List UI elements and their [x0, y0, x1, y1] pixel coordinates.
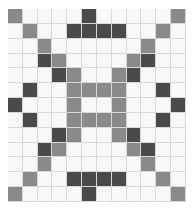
quilt-patch [97, 128, 112, 143]
quilt-patch [67, 143, 82, 158]
quilt-patch [97, 113, 112, 128]
quilt-patch [23, 128, 38, 143]
quilt-patch [23, 54, 38, 69]
quilt-patch [8, 157, 23, 172]
quilt-patch [127, 128, 142, 143]
quilt-patch [38, 39, 53, 54]
quilt-patch [171, 54, 186, 69]
quilt-patch [67, 128, 82, 143]
quilt-patch [52, 98, 67, 113]
quilt-patch [52, 9, 67, 24]
quilt-patch [171, 143, 186, 158]
quilt-patch [127, 24, 142, 39]
quilt-patch [38, 143, 53, 158]
quilt-patch [67, 157, 82, 172]
quilt-patch [97, 172, 112, 187]
quilt-patch [127, 83, 142, 98]
quilt-patch [141, 157, 156, 172]
quilt-patch [52, 128, 67, 143]
quilt-patch [171, 172, 186, 187]
quilt-patch [97, 83, 112, 98]
quilt-block-grid [8, 9, 186, 202]
quilt-patch [156, 172, 171, 187]
quilt-patch [67, 54, 82, 69]
quilt-patch [52, 143, 67, 158]
quilt-patch [23, 39, 38, 54]
quilt-patch [112, 54, 127, 69]
quilt-patch [8, 98, 23, 113]
quilt-patch [8, 113, 23, 128]
quilt-patch [23, 24, 38, 39]
quilt-patch [97, 39, 112, 54]
quilt-patch [8, 128, 23, 143]
quilt-patch [112, 98, 127, 113]
quilt-patch [112, 157, 127, 172]
quilt-patch [8, 172, 23, 187]
quilt-patch [8, 187, 23, 202]
quilt-patch [52, 157, 67, 172]
quilt-patch [23, 68, 38, 83]
quilt-patch [127, 187, 142, 202]
quilt-patch [8, 83, 23, 98]
quilt-patch [8, 68, 23, 83]
quilt-patch [8, 54, 23, 69]
quilt-figure [0, 0, 193, 211]
quilt-patch [97, 157, 112, 172]
quilt-patch [23, 83, 38, 98]
quilt-patch [82, 39, 97, 54]
quilt-patch [8, 9, 23, 24]
quilt-patch [171, 24, 186, 39]
quilt-patch [8, 39, 23, 54]
quilt-patch [112, 24, 127, 39]
quilt-patch [156, 24, 171, 39]
quilt-patch [112, 68, 127, 83]
quilt-patch [127, 54, 142, 69]
quilt-patch [38, 113, 53, 128]
quilt-patch [141, 9, 156, 24]
quilt-patch [23, 187, 38, 202]
quilt-patch [52, 113, 67, 128]
quilt-patch [97, 98, 112, 113]
quilt-patch [97, 68, 112, 83]
quilt-patch [141, 83, 156, 98]
quilt-patch [97, 9, 112, 24]
quilt-patch [141, 187, 156, 202]
quilt-patch [127, 39, 142, 54]
quilt-patch [23, 172, 38, 187]
quilt-patch [97, 54, 112, 69]
quilt-patch [112, 9, 127, 24]
quilt-patch [97, 143, 112, 158]
quilt-patch [67, 172, 82, 187]
quilt-patch [67, 113, 82, 128]
quilt-patch [82, 54, 97, 69]
quilt-patch [52, 24, 67, 39]
quilt-patch [156, 98, 171, 113]
quilt-patch [141, 24, 156, 39]
quilt-patch [171, 113, 186, 128]
quilt-patch [23, 143, 38, 158]
quilt-patch [141, 39, 156, 54]
quilt-patch [127, 143, 142, 158]
quilt-patch [23, 9, 38, 24]
quilt-patch [156, 9, 171, 24]
quilt-patch [127, 98, 142, 113]
quilt-patch [97, 24, 112, 39]
quilt-patch [52, 39, 67, 54]
quilt-patch [112, 113, 127, 128]
quilt-patch [38, 9, 53, 24]
quilt-patch [67, 24, 82, 39]
quilt-patch [82, 83, 97, 98]
quilt-patch [156, 187, 171, 202]
quilt-patch [171, 187, 186, 202]
quilt-patch [141, 68, 156, 83]
quilt-patch [127, 113, 142, 128]
quilt-patch [156, 157, 171, 172]
quilt-patch [156, 68, 171, 83]
quilt-patch [112, 143, 127, 158]
quilt-patch [141, 128, 156, 143]
quilt-patch [171, 128, 186, 143]
quilt-patch [82, 187, 97, 202]
quilt-patch [171, 9, 186, 24]
quilt-patch [38, 98, 53, 113]
quilt-patch [156, 54, 171, 69]
